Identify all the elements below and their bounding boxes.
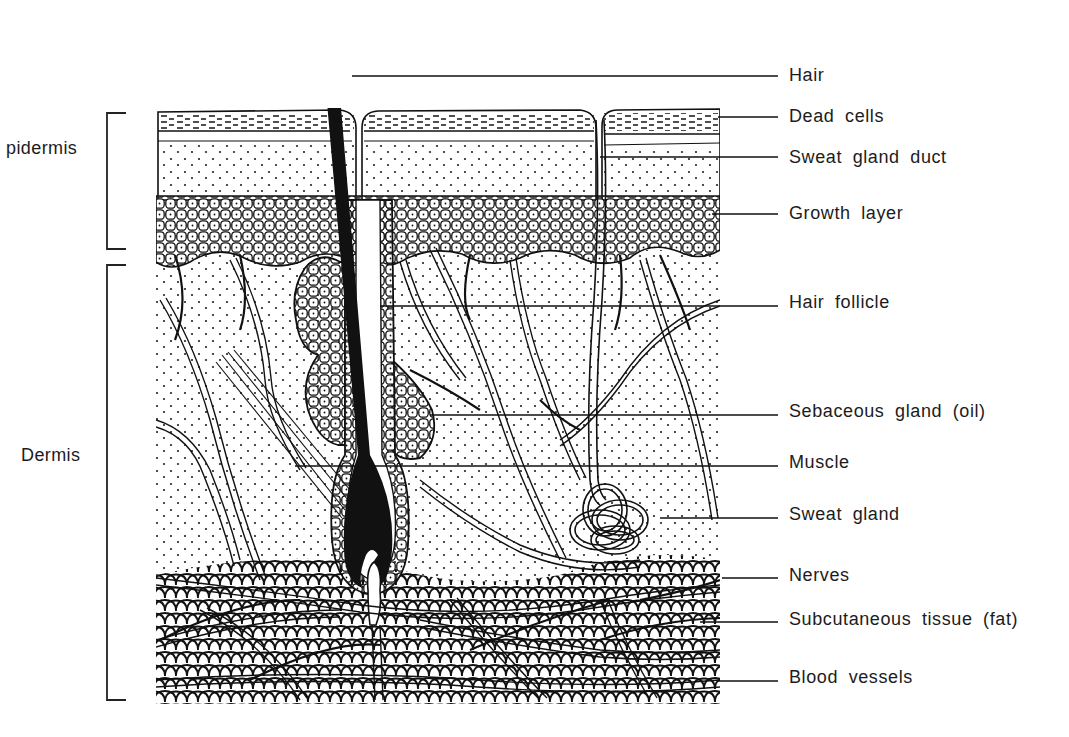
label-growth-layer: Growth layer [789, 204, 903, 222]
label-dead-cells: Dead cells [789, 107, 884, 125]
label-sweat-gland-duct: Sweat gland duct [789, 148, 947, 166]
label-muscle: Muscle [789, 453, 850, 471]
label-nerves: Nerves [789, 566, 850, 584]
label-hair: Hair [789, 66, 824, 84]
label-hair-follicle: Hair follicle [789, 293, 890, 311]
label-epidermis: pidermis [6, 139, 77, 157]
label-blood-vessels: Blood vessels [789, 668, 913, 686]
epidermis-middle-block [362, 110, 596, 200]
label-sweat-gland: Sweat gland [789, 505, 900, 523]
label-sebaceous-gland: Sebaceous gland (oil) [789, 402, 986, 420]
hair-papilla [368, 562, 381, 625]
epidermis-right-block [602, 109, 720, 200]
skin-diagram: pidermis Dermis Hair Dead cells Sweat gl… [0, 0, 1069, 737]
epidermis-left-block [158, 110, 356, 200]
label-subcutaneous-tissue: Subcutaneous tissue (fat) [789, 610, 1018, 628]
label-dermis: Dermis [21, 446, 80, 464]
layer-brackets [107, 113, 126, 700]
